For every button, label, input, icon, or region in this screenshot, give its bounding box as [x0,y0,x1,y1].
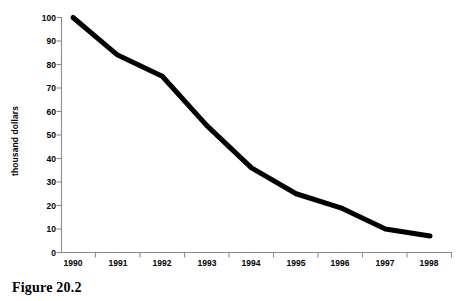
x-tick-label: 1990 [51,259,95,268]
x-tick-label: 1992 [140,259,184,268]
x-tick-label: 1993 [185,259,229,268]
figure-caption: Figure 20.2 [12,280,82,296]
x-tick-label: 1995 [274,259,318,268]
x-tick-label: 1991 [96,259,140,268]
x-tick-label: 1994 [229,259,273,268]
x-axis-tick-labels: 1990 1991 1992 1993 1994 1995 1996 1997 … [0,0,467,301]
figure-container: thousand dollars 100 90 80 70 60 50 40 3… [0,0,467,301]
x-tick-label: 1997 [363,259,407,268]
x-tick-label: 1998 [407,259,451,268]
x-tick-label: 1996 [318,259,362,268]
